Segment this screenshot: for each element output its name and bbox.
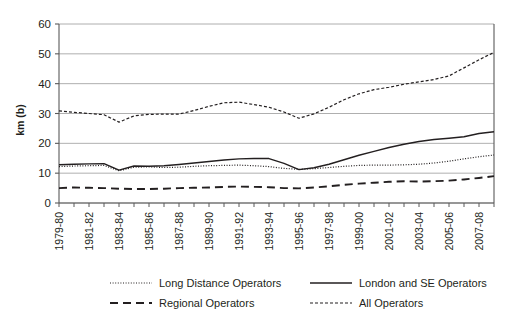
x-tick-label-2007-08: 2007-08: [473, 212, 485, 251]
legend-label-london-and-se-operators: London and SE Operators: [359, 277, 487, 289]
y-tick-label-0: 0: [45, 197, 51, 209]
y-tick-label-30: 30: [38, 108, 51, 120]
x-tick-label-2003-04: 2003-04: [413, 212, 425, 251]
chart-page: 0102030405060 1979-801981-821983-841985-…: [0, 0, 511, 318]
y-tick-label-40: 40: [38, 78, 51, 90]
x-tick-label-1989-90: 1989-90: [203, 212, 215, 251]
x-tick-label-1981-82: 1981-82: [83, 212, 95, 251]
legend-label-regional-operators: Regional Operators: [159, 297, 255, 309]
chart-canvas: 0102030405060 1979-801981-821983-841985-…: [0, 0, 511, 318]
y-tick-label-60: 60: [38, 18, 51, 30]
line-chart-figure: 0102030405060 1979-801981-821983-841985-…: [0, 0, 511, 318]
x-tick-label-1987-88: 1987-88: [173, 212, 185, 251]
x-tick-label-1995-96: 1995-96: [293, 212, 305, 251]
x-tick-label-1983-84: 1983-84: [113, 212, 125, 251]
y-tick-label-50: 50: [38, 48, 51, 60]
x-tick-label-1999-00: 1999-00: [353, 212, 365, 251]
x-tick-label-1985-86: 1985-86: [143, 212, 155, 251]
y-tick-label-10: 10: [38, 167, 51, 179]
x-tick-label-1979-80: 1979-80: [53, 212, 65, 251]
legend-label-all-operators: All Operators: [359, 297, 424, 309]
x-tick-label-2005-06: 2005-06: [443, 212, 455, 251]
x-tick-label-1991-92: 1991-92: [233, 212, 245, 251]
x-tick-label-1997-98: 1997-98: [323, 212, 335, 251]
y-axis-title: km (b): [14, 104, 26, 136]
legend-label-long-distance-operators: Long Distance Operators: [159, 277, 282, 289]
x-tick-label-2001-02: 2001-02: [383, 212, 395, 251]
x-tick-label-1993-94: 1993-94: [263, 212, 275, 251]
y-tick-label-20: 20: [38, 137, 51, 149]
